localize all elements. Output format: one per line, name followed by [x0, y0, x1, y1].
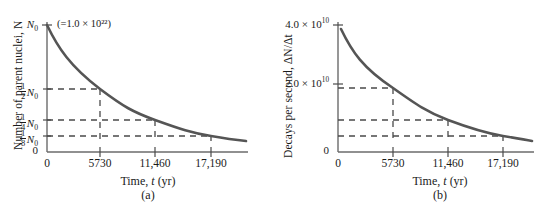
y-origin-label-a: 0 — [0, 144, 38, 156]
y-axis-title-b: Decays per second, ΔN/Δt — [282, 34, 294, 158]
x-axis-title-b-main: Time, — [412, 174, 443, 188]
panel-caption-b: (b) — [360, 188, 520, 203]
annotation-N0-value-a: (=1.0 × 10²²) — [57, 18, 111, 29]
x-tick-label-11460-b: 11,460 — [421, 157, 475, 169]
panel-caption-a: (a) — [68, 188, 228, 203]
panel-a: Number of parent nuclei, N N0 12N0 14N0 … — [0, 0, 272, 204]
y-origin-label-b: 0 — [272, 144, 329, 156]
panel-b: Decays per second, ΔN/Δt 4.0 × 1010 2.0 … — [272, 0, 545, 204]
x-axis-title-a: Time, t (yr) — [68, 174, 228, 189]
x-axis-title-b-var: t — [443, 174, 446, 188]
decay-figure: Number of parent nuclei, N N0 12N0 14N0 … — [0, 0, 545, 204]
x-axis-title-a-unit: (yr) — [158, 174, 176, 188]
x-tick-label-5730-a: 5730 — [78, 157, 122, 169]
x-tick-label-17190-b: 17,190 — [476, 157, 530, 169]
x-tick-label-17190-a: 17,190 — [184, 157, 238, 169]
x-tick-label-0-a: 0 — [30, 157, 64, 169]
x-tick-label-5730-b: 5730 — [371, 157, 415, 169]
x-axis-title-a-var: t — [151, 174, 154, 188]
x-tick-label-11460-a: 11,460 — [128, 157, 182, 169]
x-axis-title-b: Time, t (yr) — [360, 174, 520, 189]
decay-curve-a — [47, 25, 246, 141]
x-axis-title-a-main: Time, — [120, 174, 151, 188]
y-axis-title-b-text: Decays per second, ΔN/Δt — [282, 34, 294, 158]
y-tick-label-half-a: 12N0 — [0, 82, 38, 101]
x-axis-title-b-unit: (yr) — [450, 174, 468, 188]
y-tick-label-4e10-b: 4.0 × 1010 — [272, 18, 329, 30]
y-tick-label-N0-a: N0 — [0, 18, 38, 33]
y-tick-label-2e10-b: 2.0 × 1010 — [272, 77, 329, 89]
decay-curve-b — [341, 29, 532, 141]
x-tick-label-0-b: 0 — [321, 157, 355, 169]
